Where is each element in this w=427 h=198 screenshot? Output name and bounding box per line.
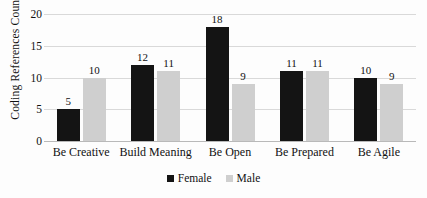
y-axis-tick-label: 10 <box>20 72 42 84</box>
bar-group: 189 <box>193 14 267 141</box>
bar-group: 1211 <box>118 14 192 141</box>
bar-male[interactable]: 9 <box>380 14 403 141</box>
x-axis-category-label: Be Creative <box>44 145 118 160</box>
gridline <box>44 141 416 142</box>
bar-value-label: 18 <box>212 13 223 25</box>
legend-item-female[interactable]: Female <box>167 172 212 184</box>
bar-value-label: 12 <box>137 51 148 63</box>
bar-rect <box>232 84 255 141</box>
bar-female[interactable]: 10 <box>354 14 377 141</box>
legend-swatch-icon <box>167 175 174 182</box>
bar-female[interactable]: 5 <box>57 14 80 141</box>
bar-value-label: 10 <box>360 64 371 76</box>
legend-item-male[interactable]: Male <box>226 172 261 184</box>
bar-value-label: 9 <box>389 70 395 82</box>
bar-group: 510 <box>44 14 118 141</box>
bar-group: 1111 <box>267 14 341 141</box>
bar-rect <box>131 65 154 141</box>
bar-female[interactable]: 11 <box>280 14 303 141</box>
x-axis-category-label: Be Prepared <box>267 145 341 160</box>
bar-rect <box>206 27 229 141</box>
bar-male[interactable]: 10 <box>83 14 106 141</box>
bar-male[interactable]: 9 <box>232 14 255 141</box>
legend-swatch-icon <box>226 175 233 182</box>
bar-male[interactable]: 11 <box>306 14 329 141</box>
bar-value-label: 5 <box>65 95 71 107</box>
y-axis-tick-label: 0 <box>20 135 42 147</box>
plot-area: 51012111891111109 <box>44 14 416 141</box>
bar-rect <box>157 71 180 141</box>
x-axis-category-labels: Be CreativeBuild MeaningBe OpenBe Prepar… <box>44 145 416 160</box>
bar-value-label: 11 <box>163 57 174 69</box>
bar-rect <box>83 78 106 142</box>
bar-rect <box>280 71 303 141</box>
bar-value-label: 11 <box>286 57 297 69</box>
bar-value-label: 10 <box>89 64 100 76</box>
x-axis-category-label: Be Open <box>193 145 267 160</box>
bar-groups: 51012111891111109 <box>44 14 416 141</box>
y-axis-tick-label: 20 <box>20 8 42 20</box>
x-axis-category-label: Build Meaning <box>118 145 192 160</box>
bar-female[interactable]: 18 <box>206 14 229 141</box>
y-axis-tick-label: 15 <box>20 40 42 52</box>
legend-label: Male <box>237 172 261 184</box>
bar-chart: Coding References Count 05101520 5101211… <box>0 0 427 198</box>
bar-group: 109 <box>342 14 416 141</box>
chart-legend: FemaleMale <box>0 172 427 184</box>
bar-rect <box>306 71 329 141</box>
y-axis-title: Coding References Count <box>9 0 21 131</box>
legend-label: Female <box>178 172 212 184</box>
bar-value-label: 11 <box>312 57 323 69</box>
bar-rect <box>57 109 80 141</box>
bar-female[interactable]: 12 <box>131 14 154 141</box>
bar-rect <box>354 78 377 142</box>
bar-male[interactable]: 11 <box>157 14 180 141</box>
bar-value-label: 9 <box>240 70 246 82</box>
y-axis-tick-label: 5 <box>20 103 42 115</box>
x-axis-category-label: Be Agile <box>342 145 416 160</box>
bar-rect <box>380 84 403 141</box>
